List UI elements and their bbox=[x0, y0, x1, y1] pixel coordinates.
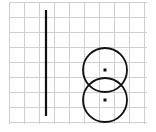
upper-center-dot bbox=[104, 69, 107, 72]
diagram-canvas bbox=[0, 0, 156, 132]
lower-center-dot bbox=[104, 99, 107, 102]
grid-diagram bbox=[0, 0, 156, 132]
circles bbox=[83, 48, 127, 122]
center-points bbox=[104, 69, 107, 102]
